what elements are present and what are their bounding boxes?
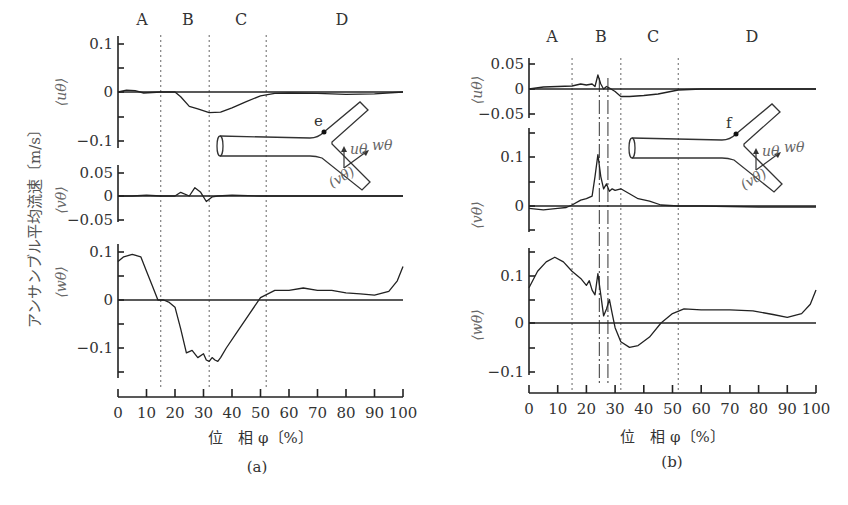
y-tick-label: 0.1 bbox=[500, 148, 524, 166]
x-tick-label: 100 bbox=[802, 400, 831, 418]
x-tick-label: 100 bbox=[389, 404, 418, 422]
panel-caption: (a) bbox=[247, 458, 268, 476]
data-series-line bbox=[118, 188, 403, 202]
x-tick-label: 80 bbox=[749, 400, 768, 418]
bifurcation-diagram-a: euθwθ(vθ) bbox=[217, 102, 393, 191]
region-label-d: D bbox=[746, 27, 759, 46]
x-axis-title: 位 相 φ〔%〕 bbox=[620, 428, 725, 446]
figure: ABCD0.10−0.1⟨uθ⟩0.050−0.05⟨vθ⟩0.10−0.1⟨w… bbox=[0, 0, 848, 505]
region-label-c: C bbox=[235, 10, 247, 29]
x-tick-label: 20 bbox=[577, 400, 596, 418]
region-label-b: B bbox=[595, 27, 607, 46]
x-tick-label: 0 bbox=[113, 404, 123, 422]
measure-point bbox=[734, 132, 739, 137]
quantity-label: ⟨wθ⟩ bbox=[53, 266, 69, 297]
y-tick-label: 0 bbox=[103, 291, 113, 309]
x-tick-label: 90 bbox=[778, 400, 797, 418]
region-label-c: C bbox=[647, 27, 659, 46]
u-label: uθ bbox=[762, 143, 780, 159]
region-label-d: D bbox=[336, 10, 349, 29]
quantity-label: ⟨uθ⟩ bbox=[469, 76, 485, 104]
measure-point bbox=[322, 130, 327, 135]
measure-point-label: f bbox=[726, 114, 733, 132]
x-tick-label: 40 bbox=[222, 404, 241, 422]
w-label: wθ bbox=[372, 137, 393, 153]
y-tick-label: 0.1 bbox=[500, 267, 524, 285]
panel-caption: (b) bbox=[661, 453, 682, 471]
w-label: wθ bbox=[784, 139, 805, 155]
x-tick-label: 10 bbox=[548, 400, 567, 418]
x-tick-label: 30 bbox=[194, 404, 213, 422]
region-label-b: B bbox=[182, 10, 194, 29]
region-label-a: A bbox=[135, 10, 148, 29]
y-tick-label: 0 bbox=[103, 83, 113, 101]
x-tick-label: 60 bbox=[692, 400, 711, 418]
x-tick-label: 40 bbox=[634, 400, 653, 418]
x-tick-label: 50 bbox=[663, 400, 682, 418]
quantity-label: ⟨vθ⟩ bbox=[53, 186, 69, 213]
bifurcation-diagram-b: fuθwθ(vθ) bbox=[629, 104, 805, 193]
v-label: (vθ) bbox=[738, 165, 770, 192]
y-tick-label: −0.05 bbox=[478, 105, 524, 123]
data-series-line bbox=[529, 155, 816, 210]
u-label: uθ bbox=[350, 141, 368, 157]
y-tick-label: 0.1 bbox=[89, 35, 113, 53]
x-tick-label: 70 bbox=[308, 404, 327, 422]
y-tick-label: −0.1 bbox=[77, 132, 113, 150]
y-tick-label: 0.05 bbox=[491, 55, 524, 73]
quantity-label: ⟨vθ⟩ bbox=[469, 201, 485, 228]
u-arrow-head bbox=[753, 148, 759, 154]
y-tick-label: 0 bbox=[103, 187, 113, 205]
vessel-end bbox=[629, 138, 635, 158]
y-tick-label: 0 bbox=[514, 197, 524, 215]
x-tick-label: 80 bbox=[336, 404, 355, 422]
y-tick-label: −0.1 bbox=[77, 339, 113, 357]
x-tick-label: 10 bbox=[137, 404, 156, 422]
quantity-label: ⟨uθ⟩ bbox=[53, 78, 69, 106]
y-tick-label: −0.05 bbox=[67, 211, 113, 229]
y-tick-label: 0.05 bbox=[80, 164, 113, 182]
y-tick-label: −0.1 bbox=[488, 363, 524, 381]
region-label-a: A bbox=[545, 27, 558, 46]
x-tick-label: 50 bbox=[251, 404, 270, 422]
x-tick-label: 0 bbox=[524, 400, 534, 418]
x-tick-label: 90 bbox=[365, 404, 384, 422]
u-arrow-head bbox=[341, 146, 347, 152]
y-tick-label: 0.1 bbox=[89, 243, 113, 261]
panel-a: ABCD0.10−0.1⟨uθ⟩0.050−0.05⟨vθ⟩0.10−0.1⟨w… bbox=[26, 10, 417, 476]
panel-b: ABCD0.050−0.05⟨uθ⟩0.10⟨vθ⟩0.10−0.1⟨wθ⟩01… bbox=[469, 27, 830, 471]
measure-point-label: e bbox=[314, 112, 323, 130]
v-label: (vθ) bbox=[326, 163, 358, 190]
quantity-label: ⟨wθ⟩ bbox=[469, 309, 485, 340]
y-tick-label: 0 bbox=[514, 314, 524, 332]
y-tick-label: 0 bbox=[514, 80, 524, 98]
x-axis-title: 位 相 φ〔%〕 bbox=[208, 429, 313, 447]
x-tick-label: 20 bbox=[165, 404, 184, 422]
x-tick-label: 60 bbox=[279, 404, 298, 422]
x-tick-label: 30 bbox=[606, 400, 625, 418]
y-axis-title: アンサンブル平均流速〔m/s〕 bbox=[26, 122, 44, 328]
x-tick-label: 70 bbox=[720, 400, 739, 418]
vessel-end bbox=[217, 136, 223, 156]
